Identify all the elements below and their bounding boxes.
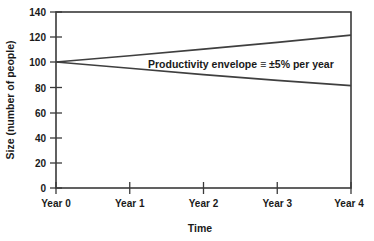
productivity-envelope-annotation: Productivity envelope ≡ ±5% per year [148, 58, 334, 70]
plot-area-border [56, 12, 351, 188]
y-tick-label-100: 100 [29, 57, 46, 68]
x-tick-label-year-0: Year 0 [41, 198, 71, 209]
y-tick-label-40: 40 [35, 133, 47, 144]
y-tick-label-60: 60 [35, 108, 47, 119]
x-axis-tick-labels: Year 0 Year 1 Year 2 Year 3 Year 4 [41, 198, 364, 209]
y-axis-title: Size (number of people) [4, 40, 16, 159]
x-tick-label-year-4: Year 4 [334, 198, 364, 209]
annotation-group: Productivity envelope ≡ ±5% per year [148, 58, 334, 70]
x-axis-title: Time [188, 222, 212, 234]
y-tick-label-140: 140 [29, 7, 46, 18]
x-tick-label-year-1: Year 1 [115, 198, 145, 209]
plot-frame [56, 12, 351, 188]
y-axis-tick-labels: 140 120 100 80 60 40 20 0 [29, 7, 46, 194]
y-tick-label-0: 0 [40, 183, 46, 194]
y-tick-label-20: 20 [35, 158, 47, 169]
y-tick-label-80: 80 [35, 83, 47, 94]
x-tick-label-year-2: Year 2 [189, 198, 219, 209]
productivity-envelope-chart: 140 120 100 80 60 40 20 0 Year 0 Year 1 … [0, 0, 374, 241]
chart-figure: 140 120 100 80 60 40 20 0 Year 0 Year 1 … [0, 0, 374, 241]
x-tick-label-year-3: Year 3 [263, 198, 293, 209]
y-tick-label-120: 120 [29, 32, 46, 43]
